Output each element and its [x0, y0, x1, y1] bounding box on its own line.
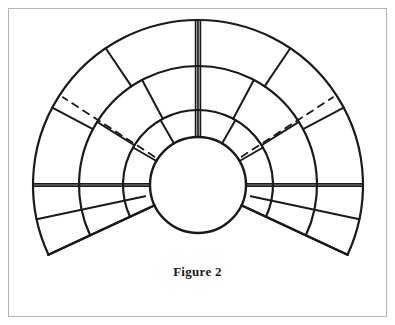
joint-outer-band-152 — [52, 108, 93, 130]
joint-inner-band-60 — [222, 120, 236, 143]
figure-caption: Figure 2 — [0, 264, 395, 280]
joint-inner-band-150 — [133, 148, 156, 162]
joint-inner-band-120 — [161, 120, 175, 143]
joint-tail-205 — [48, 208, 149, 255]
joint-middle-band-148 — [97, 122, 134, 145]
arch-drawing-group — [33, 20, 363, 255]
joint-middle-band-62 — [233, 80, 254, 119]
joint-outer-band-28 — [303, 108, 344, 130]
joint-outer-band-124 — [106, 48, 132, 86]
joint-middle-band-32 — [262, 122, 299, 145]
joint-inner-band-30 — [240, 148, 263, 162]
joint-outer-band-56 — [265, 48, 291, 86]
inner-circle — [150, 137, 246, 233]
joint-tail--25 — [247, 208, 348, 255]
figure-page: Figure 2 — [0, 0, 395, 325]
joint-middle-band-118 — [142, 80, 163, 119]
